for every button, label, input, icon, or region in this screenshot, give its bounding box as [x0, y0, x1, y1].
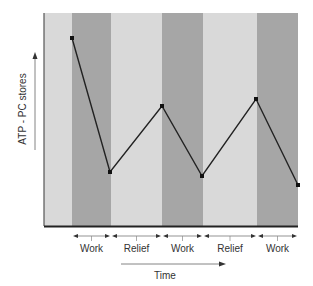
phase-band-work — [162, 13, 203, 226]
phase-band-work — [72, 13, 111, 226]
segment-work: Work — [258, 234, 297, 254]
segment-work: Work — [163, 234, 202, 254]
x-axis-label: Time — [154, 270, 176, 281]
phase-band-relief — [203, 13, 257, 226]
segment-work: Work — [73, 234, 110, 254]
data-point — [200, 174, 204, 178]
data-point — [160, 104, 164, 108]
segment-label: Work — [266, 243, 290, 254]
segment-label: Relief — [217, 243, 243, 254]
data-point — [108, 170, 112, 174]
segment-relief: Relief — [112, 234, 161, 254]
data-point — [70, 36, 74, 40]
phase-bands — [44, 13, 298, 226]
segment-label: Work — [171, 243, 195, 254]
x-axis-time-arrow — [121, 262, 226, 267]
chart: ATP - PC stores WorkReliefWorkReliefWork… — [0, 0, 313, 286]
phase-band-relief — [111, 13, 162, 226]
phase-band-rest — [44, 13, 72, 226]
data-point — [254, 97, 258, 101]
y-axis-label: ATP - PC stores — [17, 73, 28, 144]
phase-band-work — [257, 13, 298, 226]
segment-label: Relief — [124, 243, 150, 254]
y-axis-arrow — [33, 52, 38, 150]
segment-label: Work — [80, 243, 104, 254]
segment-relief: Relief — [204, 234, 256, 254]
x-segment-markers: WorkReliefWorkReliefWork — [73, 234, 297, 254]
data-point — [296, 183, 300, 187]
